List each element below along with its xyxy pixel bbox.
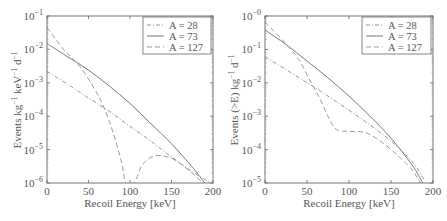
y-tick-label: 10−5 [241, 175, 261, 189]
x-tick-label: 0 [44, 185, 50, 197]
x-tick-label: 150 [163, 185, 180, 197]
x-tick-label: 0 [262, 185, 268, 197]
right-x-axis-label: Recoil Energy [keV] [303, 197, 394, 209]
x-tick-label: 50 [83, 185, 95, 197]
y-tick-label: 10−1 [23, 8, 43, 22]
legend-a127: A = 127 [388, 42, 422, 53]
x-tick-label: 50 [302, 185, 314, 197]
right-y-axis-label: Events (>E) kg−1 d−1 [227, 54, 241, 145]
right-plot: 05010015020010−510−410−310−210−110−0 A =… [227, 8, 442, 209]
y-tick-label: 10−3 [241, 108, 261, 122]
right-legend: A = 28 A = 73 A = 127 [362, 17, 431, 54]
y-tick-label: 10−1 [241, 41, 261, 55]
chart-figure: 05010015020010−610−510−410−310−210−1 A =… [0, 0, 447, 221]
left-y-axis-label: Events kg−1 keV−1 d−1 [10, 51, 23, 148]
left-x-axis-label: Recoil Energy [keV] [84, 197, 175, 209]
legend-a73: A = 73 [388, 31, 417, 42]
series-line [47, 71, 213, 184]
x-tick-label: 200 [205, 185, 222, 197]
y-tick-label: 10−2 [241, 75, 261, 89]
left-legend: A = 28 A = 73 A = 127 [143, 17, 211, 54]
y-tick-label: 10−2 [23, 41, 43, 55]
x-tick-label: 100 [341, 185, 358, 197]
legend-a28: A = 28 [388, 20, 417, 31]
y-tick-label: 10−4 [241, 142, 261, 156]
y-tick-label: 10−6 [23, 175, 43, 189]
y-tick-label: 10−4 [23, 108, 43, 122]
y-tick-label: 10−3 [23, 75, 43, 89]
x-tick-label: 150 [383, 185, 400, 197]
left-plot: 05010015020010−610−510−410−310−210−1 A =… [10, 8, 222, 209]
x-tick-label: 200 [425, 185, 442, 197]
legend-a28: A = 28 [169, 20, 198, 31]
legend-a73: A = 73 [169, 31, 198, 42]
series-line [47, 44, 205, 184]
y-tick-label: 10−0 [241, 8, 261, 22]
series-line [265, 57, 425, 181]
x-tick-label: 100 [122, 185, 139, 197]
y-tick-label: 10−5 [23, 142, 43, 156]
legend-a127: A = 127 [169, 42, 203, 53]
